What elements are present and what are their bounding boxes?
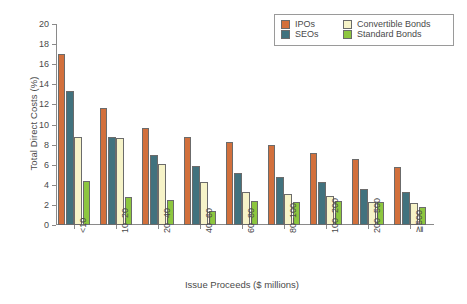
bar-ipos [394, 167, 402, 225]
bar-seos [318, 182, 326, 225]
x-axis-tick [242, 225, 243, 229]
x-axis-tick [74, 225, 75, 229]
bar-seos [192, 166, 200, 225]
y-axis-tick-label: 8 [23, 141, 49, 150]
y-axis-tick [52, 84, 56, 85]
chart-figure: Total Direct Costs (%) Issue Proceeds ($… [0, 0, 467, 304]
bar-ipos [352, 159, 360, 225]
bar-ipos [226, 142, 234, 225]
legend-label-standard-bonds: Standard Bonds [357, 30, 422, 39]
y-axis-tick-label: 12 [23, 100, 49, 109]
y-axis-tick [52, 64, 56, 65]
bar-ipos [268, 145, 276, 225]
bar-ipos [58, 54, 66, 225]
y-axis-tick [52, 225, 56, 226]
bar-seos [360, 189, 368, 225]
x-axis-category-label: 40–60 [204, 208, 214, 233]
y-axis-tick-label: 20 [23, 20, 49, 29]
x-axis-tick [200, 225, 201, 229]
legend-item-ipos: IPOs [281, 20, 343, 29]
y-axis-tick [52, 24, 56, 25]
legend-label-ipos: IPOs [295, 20, 315, 29]
bar-ipos [184, 137, 192, 225]
legend-swatch-ipos [281, 20, 290, 29]
x-axis-category-label: 10–20 [120, 208, 130, 233]
legend-swatch-standard-bonds [343, 30, 352, 39]
y-axis-tick [52, 165, 56, 166]
legend-item-convertible-bonds: Convertible Bonds [343, 20, 431, 29]
legend-item-seos: SEOs [281, 30, 343, 39]
x-axis-tick [368, 225, 369, 229]
bar-seos [150, 155, 158, 225]
x-axis-category-label: ≧500 [414, 210, 424, 233]
x-axis-tick [116, 225, 117, 229]
y-axis-tick [52, 104, 56, 105]
x-axis-category-label: 80–100 [288, 203, 298, 233]
x-axis-tick [158, 225, 159, 229]
y-axis-tick-label: 16 [23, 60, 49, 69]
legend-label-seos: SEOs [295, 30, 319, 39]
x-axis-category-label: <10 [78, 218, 88, 233]
y-axis-tick [52, 205, 56, 206]
bar-convertible-bonds [74, 137, 82, 225]
y-axis-tick [52, 44, 56, 45]
x-axis-title: Issue Proceeds ($ millions) [40, 279, 444, 290]
chart-legend: IPOs Convertible Bonds SEOs Standard Bon… [274, 14, 454, 46]
y-axis-tick-label: 18 [23, 40, 49, 49]
y-axis-tick-label: 14 [23, 80, 49, 89]
x-axis-category-label: 200–500 [372, 198, 382, 233]
bar-ipos [142, 128, 150, 225]
y-axis-tick-label: 2 [23, 201, 49, 210]
x-axis-tick [284, 225, 285, 229]
legend-swatch-seos [281, 30, 290, 39]
bar-seos [276, 177, 284, 225]
legend-item-standard-bonds: Standard Bonds [343, 30, 422, 39]
plot-area: 02468101214161820 <1010–2020–4040–6060–8… [56, 24, 434, 225]
legend-row: SEOs Standard Bonds [281, 30, 447, 39]
y-axis-tick [52, 145, 56, 146]
x-axis-category-label: 60–80 [246, 208, 256, 233]
legend-row: IPOs Convertible Bonds [281, 20, 447, 29]
y-axis-tick [52, 185, 56, 186]
bar-ipos [100, 108, 108, 225]
y-axis-tick-label: 6 [23, 161, 49, 170]
bar-seos [108, 137, 116, 225]
bar-seos [234, 173, 242, 225]
x-axis-tick [410, 225, 411, 229]
x-axis-category-label: 100–200 [330, 198, 340, 233]
y-axis-tick-label: 10 [23, 121, 49, 130]
y-axis-tick-label: 0 [23, 221, 49, 230]
legend-label-convertible-bonds: Convertible Bonds [357, 20, 431, 29]
bar-seos [402, 192, 410, 225]
bar-ipos [310, 153, 318, 225]
y-axis-tick [52, 125, 56, 126]
y-axis-tick-label: 4 [23, 181, 49, 190]
bar-seos [66, 91, 74, 225]
x-axis-tick [326, 225, 327, 229]
legend-swatch-convertible-bonds [343, 20, 352, 29]
x-axis-category-label: 20–40 [162, 208, 172, 233]
